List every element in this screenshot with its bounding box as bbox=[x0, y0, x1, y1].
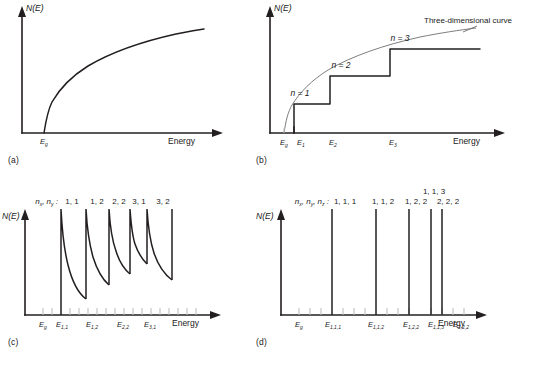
panel-b-x-ticks bbox=[284, 127, 294, 133]
panel-d-state-label-1-1-1: 1, 1, 1 bbox=[334, 197, 357, 206]
panel-d-caption: (d) bbox=[256, 337, 267, 347]
panel-b-step-label-n1: n = 1 bbox=[290, 88, 309, 98]
panel-b-curve-note: Three-dimensional curve bbox=[424, 16, 513, 25]
panel-c-minor-ticks bbox=[43, 308, 196, 315]
panel-c-subband-1-2 bbox=[86, 209, 109, 299]
panel-b-y-axis bbox=[266, 6, 274, 133]
panel-c-state-header: nx, ny : bbox=[35, 197, 58, 207]
panel-a: N(E) Energy Eg (a) bbox=[0, 0, 250, 150]
panel-c-tick-e12: E1,2 bbox=[86, 320, 98, 330]
panel-c-state-label-1-1: 1, 1 bbox=[65, 197, 79, 206]
panel-c-state-label-1-2: 1, 2 bbox=[90, 197, 104, 206]
panel-c-caption: (c) bbox=[8, 337, 19, 347]
panel-b-y-axis-label: N(E) bbox=[274, 3, 292, 13]
panel-d-minor-ticks bbox=[299, 308, 464, 315]
panel-b-tick-eg: Eg bbox=[280, 138, 288, 148]
panel-a-x-axis-label: Energy bbox=[168, 136, 196, 146]
panel-a-y-axis-label: N(E) bbox=[26, 3, 44, 13]
panel-b-step-label-n3: n = 3 bbox=[390, 33, 409, 43]
panel-c-subband-3-1 bbox=[130, 209, 147, 274]
panel-d-tick-eg: Eg bbox=[295, 320, 303, 330]
panel-c-tick-e11: E1,1 bbox=[56, 320, 68, 330]
panel-c-tick-e22: E2,2 bbox=[117, 320, 129, 330]
panel-c-state-label-3-1: 3, 1 bbox=[132, 197, 146, 206]
panel-d-state-label-2-2-2: 2, 2, 2 bbox=[437, 197, 460, 206]
panel-c: N(E) Energy bbox=[0, 185, 250, 335]
panel-b: N(E) Energy n = 1 n = 2 n = 3 Three-dime… bbox=[248, 0, 551, 150]
panel-a-tick-eg: Eg bbox=[40, 137, 48, 147]
panel-a-caption: (a) bbox=[8, 155, 19, 165]
panel-c-tick-eg: Eg bbox=[39, 320, 47, 330]
panel-d-y-axis bbox=[277, 209, 285, 315]
panel-c-subband-3-2 bbox=[147, 209, 172, 280]
panel-a-dos-curve bbox=[44, 29, 204, 133]
svg-text:Eg: Eg bbox=[40, 137, 48, 147]
panel-c-subband-2-2 bbox=[109, 209, 130, 285]
panel-c-state-label-3-2: 3, 2 bbox=[156, 197, 170, 206]
panel-c-tick-e31: E3,1 bbox=[144, 320, 156, 330]
panel-d-state-label-1-1-3: 1, 1, 3 bbox=[423, 187, 446, 196]
panel-b-three-dimensional-curve bbox=[284, 28, 476, 133]
density-of-states-figure: N(E) Energy Eg (a) N(E) Energ bbox=[0, 0, 551, 370]
panel-d-tick-e112: E1,1,2 bbox=[368, 320, 384, 330]
panel-d-y-axis-label: N(E) bbox=[256, 211, 274, 221]
panel-c-subband-1-1 bbox=[61, 209, 86, 315]
panel-b-tick-e1: E1 bbox=[297, 138, 305, 148]
panel-d-state-label-1-1-2: 1, 1, 2 bbox=[372, 197, 395, 206]
panel-d-state-label-1-2-2: 1, 2, 2 bbox=[405, 197, 428, 206]
panel-c-y-axis bbox=[21, 209, 29, 315]
panel-b-staircase-curve bbox=[294, 49, 480, 133]
panel-c-state-label-2-2: 2, 2 bbox=[112, 197, 126, 206]
panel-b-x-axis-label: Energy bbox=[453, 136, 481, 146]
panel-b-tick-e2: E2 bbox=[329, 138, 337, 148]
panel-d-state-header: nx, ny, nz : bbox=[295, 197, 329, 207]
panel-c-x-axis-label: Energy bbox=[172, 318, 200, 328]
panel-c-y-axis-label: N(E) bbox=[2, 211, 20, 221]
panel-d-tick-e111: E1,1,1 bbox=[325, 320, 341, 330]
panel-b-tick-e3: E3 bbox=[389, 138, 397, 148]
panel-a-y-axis bbox=[18, 6, 26, 133]
panel-b-step-label-n2: n = 2 bbox=[331, 60, 350, 70]
panel-d: N(E) Energy bbox=[248, 185, 551, 335]
panel-d-tick-e122: E1,2,2 bbox=[403, 320, 419, 330]
panel-b-caption: (b) bbox=[256, 155, 267, 165]
